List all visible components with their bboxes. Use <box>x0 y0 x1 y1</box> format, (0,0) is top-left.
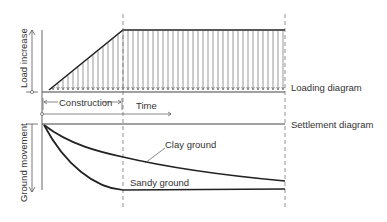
load-envelope <box>49 30 285 90</box>
clay-ground-curve <box>44 125 285 181</box>
clay-ground-leader <box>145 148 165 163</box>
clay-ground-label: Clay ground <box>165 139 216 150</box>
settlement-diagram-figure: Load increase Construction Time Loading … <box>0 0 387 222</box>
sandy-ground-label: Sandy ground <box>130 177 189 188</box>
time-label: Time <box>136 100 157 111</box>
loading-diagram-label: Loading diagram <box>291 82 362 93</box>
ground-movement-label: Ground movement <box>18 123 29 202</box>
load-increase-label: Load increase <box>18 28 29 88</box>
time-arrow <box>41 112 172 116</box>
settlement-diagram-label: Settlement diagram <box>291 119 373 130</box>
construction-label: Construction <box>59 97 112 108</box>
